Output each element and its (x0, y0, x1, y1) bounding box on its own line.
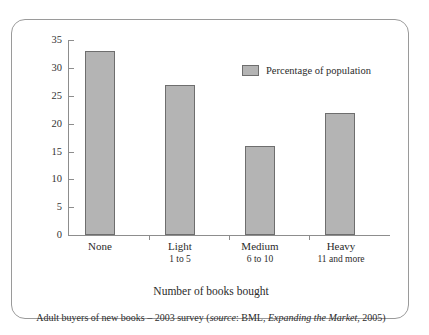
category-label-light: Light 1 to 5 (140, 240, 220, 265)
chart-legend: Percentage of population (242, 65, 371, 76)
y-tick-label-35: 35 (28, 35, 62, 46)
category-label-heavy: Heavy 11 and more (298, 240, 384, 265)
y-tick-label-0: 0 (28, 230, 62, 241)
chart-plot-area: 0 5 10 15 20 25 30 35 Percentage of popu… (28, 32, 394, 244)
y-tick-20 (68, 124, 74, 125)
y-tick-label-15: 15 (28, 147, 62, 158)
category-label-none-main: None (60, 240, 140, 253)
category-label-medium-sub: 6 to 10 (220, 254, 300, 265)
category-label-heavy-sub: 11 and more (298, 254, 384, 265)
category-label-none: None (60, 240, 140, 254)
category-label-medium-main: Medium (220, 240, 300, 253)
figure-caption: Adult buyers of new books – 2003 survey … (12, 312, 410, 323)
category-label-medium: Medium 6 to 10 (220, 240, 300, 265)
category-label-heavy-main: Heavy (298, 240, 384, 253)
y-tick-15 (68, 152, 74, 153)
bar-medium (245, 146, 275, 235)
y-tick-0 (68, 235, 74, 236)
legend-label-percentage-of-population: Percentage of population (266, 65, 371, 76)
bar-none (85, 51, 115, 235)
legend-swatch-percentage-of-population (242, 65, 259, 76)
x-axis-title: Number of books bought (12, 285, 410, 297)
caption-source-word: source (210, 312, 236, 323)
y-tick-25 (68, 96, 74, 97)
figure-frame: 0 5 10 15 20 25 30 35 Percentage of popu… (11, 19, 409, 319)
bar-light (165, 85, 195, 235)
y-tick-label-10: 10 (28, 174, 62, 185)
y-tick-label-30: 30 (28, 63, 62, 74)
caption-lead: Adult buyers of new books – 2003 survey … (36, 312, 209, 323)
y-tick-5 (68, 207, 74, 208)
clipped-text-above-figure (0, 0, 429, 12)
caption-tail: , 2005) (357, 312, 385, 323)
category-label-light-sub: 1 to 5 (140, 254, 220, 265)
caption-book-title: Expanding the Market (268, 312, 357, 323)
category-label-light-main: Light (140, 240, 220, 253)
y-tick-label-20: 20 (28, 119, 62, 130)
y-tick-label-5: 5 (28, 202, 62, 213)
caption-middle: : BML, (236, 312, 268, 323)
bar-heavy (325, 113, 355, 235)
y-tick-label-25: 25 (28, 91, 62, 102)
y-tick-30 (68, 68, 74, 69)
y-tick-35 (68, 40, 74, 41)
y-tick-10 (68, 179, 74, 180)
